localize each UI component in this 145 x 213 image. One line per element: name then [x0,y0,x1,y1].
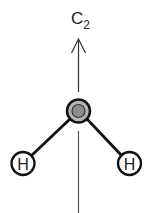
bond-right [87,119,122,156]
hydrogen-right-symbol: H [124,156,136,173]
water-molecule-diagram: C2 H H [0,0,145,213]
c2-subscript: 2 [83,18,90,32]
oxygen-atom [67,100,90,123]
hydrogen-atom-right: H [118,152,141,175]
c2-main: C [71,9,83,28]
c2-axis-label: C2 [71,9,90,32]
hydrogen-left-symbol: H [17,156,29,173]
hydrogen-atom-left: H [12,152,35,175]
bond-left [31,119,70,156]
c2-axis-arrow [72,39,86,92]
